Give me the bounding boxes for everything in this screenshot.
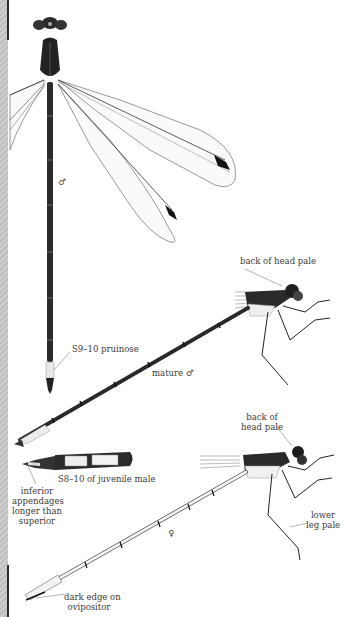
label-s8-10-juvenile-male: S8–10 of juvenile male bbox=[58, 474, 155, 484]
label-back-of-head-pale-male: back of head pale bbox=[240, 256, 316, 266]
label-line: back of bbox=[240, 412, 284, 422]
label-line: ovipositor bbox=[64, 602, 114, 612]
label-lower-leg-pale: lower leg pale bbox=[306, 510, 340, 530]
female-symbol: ♀ bbox=[168, 528, 174, 538]
label-mature-male: mature ♂ bbox=[152, 368, 193, 378]
label-line: lower bbox=[306, 510, 340, 520]
dorsal-male-symbol: ♂ bbox=[58, 177, 66, 187]
label-line: leg pale bbox=[306, 520, 340, 530]
label-line: head pale bbox=[240, 422, 284, 432]
juvenile-tail-detail bbox=[22, 452, 133, 470]
label-line: appendages bbox=[12, 496, 62, 506]
leader-back-of-head-male bbox=[245, 269, 282, 286]
leader-inferior-appendages bbox=[28, 466, 36, 484]
leader-s9-10 bbox=[54, 352, 70, 370]
label-dark-edge-ovipositor: dark edge on ovipositor bbox=[64, 592, 114, 612]
label-line: dark edge on bbox=[64, 592, 114, 602]
label-back-of-head-pale-female: back of head pale bbox=[240, 412, 284, 432]
label-s9-10-pruinose: S9–10 pruinose bbox=[72, 344, 139, 354]
label-line: longer than bbox=[12, 506, 62, 516]
label-line: superior bbox=[12, 516, 62, 526]
label-line: inferior bbox=[12, 486, 62, 496]
label-inferior-appendages: inferior appendages longer than superior bbox=[12, 486, 62, 526]
